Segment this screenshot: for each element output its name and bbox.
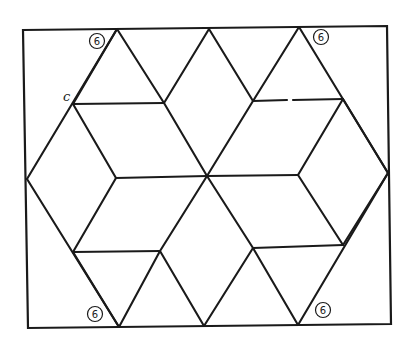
segment-ur-junction-to-right <box>343 99 388 173</box>
segment-upper-right-horizontal-b <box>293 99 343 100</box>
segment-top-apex-left <box>164 29 209 103</box>
segment-ur-inner-to-center <box>207 101 253 176</box>
segment-mid-right-horizontal <box>207 175 298 176</box>
badge-top-right: 6 <box>314 30 329 45</box>
label-c: c <box>63 89 71 104</box>
segment-ur-inner-to-hex-top-right <box>253 27 299 101</box>
segment-mid-left-to-ll <box>73 178 116 252</box>
segment-lr-inner-to-center <box>207 176 253 248</box>
segment-c-to-mid-left <box>73 104 116 178</box>
badge-label: 6 <box>320 305 326 316</box>
point-labels: c <box>63 89 71 104</box>
segment-lr-inner-to-bottom-right-vertex <box>253 248 298 325</box>
badge-bottom-right: 6 <box>316 303 331 318</box>
segment-ul-inner-to-hex-top-left <box>117 29 164 103</box>
segment-lower-right-horizontal <box>253 245 343 248</box>
segment-mid-right-to-lr-junction <box>298 175 343 245</box>
badge-bottom-left: 6 <box>88 307 103 322</box>
segment-lower-left-horizontal <box>73 251 160 252</box>
segment-ur-junction-to-mid-right <box>298 99 343 175</box>
badge-label: 6 <box>94 36 100 47</box>
segment-ll-inner-to-center <box>160 176 207 251</box>
segment-upper-right-horizontal-a <box>253 100 287 101</box>
segment-ll-inner-to-bottom-left-vertex <box>119 251 160 327</box>
segment-mid-left-horizontal <box>116 176 207 178</box>
star-quilt-diagram: 6666 c <box>0 0 412 349</box>
badge-top-left: 6 <box>90 34 105 49</box>
badge-label: 6 <box>92 309 98 320</box>
star-segments <box>27 27 388 327</box>
badge-label: 6 <box>318 32 324 43</box>
segment-lr-junction-to-right <box>343 173 388 245</box>
segment-upper-left-horizontal <box>73 103 164 104</box>
segment-top-apex-right <box>209 29 253 101</box>
segment-bottom-apex-right <box>204 248 253 326</box>
segment-bottom-apex-left <box>160 251 204 326</box>
segment-ul-inner-to-center <box>164 103 207 176</box>
